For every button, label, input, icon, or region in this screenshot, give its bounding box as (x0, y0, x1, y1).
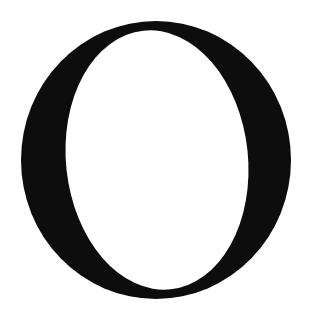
letter-o-glyph: O (0, 0, 312, 321)
letter-o-icon (0, 0, 312, 321)
